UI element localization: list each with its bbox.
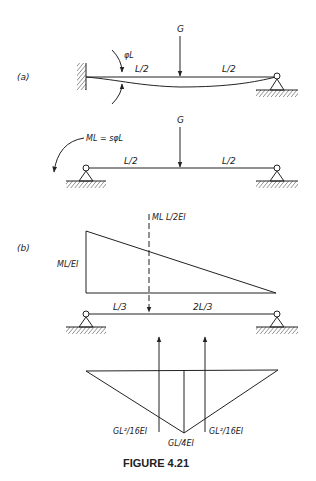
span-label-a1-right: L/2 — [222, 64, 236, 74]
part-b-label: (b) — [17, 243, 30, 253]
fixed-support — [77, 63, 86, 90]
moment-label: ML = sφL — [86, 134, 123, 143]
figure-caption: FIGURE 4.21 — [123, 457, 189, 469]
load-arrow-a2: G — [177, 115, 184, 167]
moment-height-label: ML/EI — [57, 260, 79, 269]
span-label-b-right: 2L/3 — [193, 302, 213, 312]
span-label-b-left: L/3 — [113, 302, 127, 312]
deflection-diagram: GL²/16EI GL/4EI GL²/16EI — [86, 337, 278, 448]
deflection-center-label: GL/4EI — [168, 439, 194, 448]
deflection-left-label: GL²/16EI — [113, 427, 148, 436]
svg-text:G: G — [177, 115, 184, 125]
load-label: G — [177, 24, 184, 34]
figure-canvas: (a) φL L/2 L/2 G ML = sφL L/2 L/2 G — [0, 0, 316, 481]
part-a-label: (a) — [17, 72, 30, 82]
resultant-label: ML L/2EI — [152, 213, 186, 222]
rotation-label: φL — [124, 51, 134, 60]
deflection-right-label: GL²/16EI — [209, 427, 244, 436]
svg-text:(a): (a) — [17, 72, 30, 82]
moment-diagram: ML/EI — [57, 231, 276, 293]
load-arrow-a1: G — [177, 24, 184, 76]
span-label-a1-left: L/2 — [135, 64, 149, 74]
beam-a1 — [86, 77, 276, 87]
resultant-arrow: ML L/2EI — [149, 213, 186, 312]
span-label-a2-right: L/2 — [222, 156, 236, 166]
span-label-a2-left: L/2 — [124, 156, 138, 166]
